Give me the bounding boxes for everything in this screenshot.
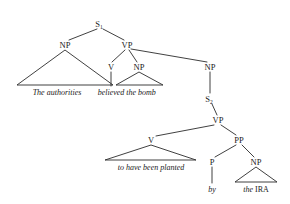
branch-s1-to-np-subject: [69, 29, 97, 40]
terminal-object-phrase: the bomb: [126, 88, 156, 97]
branch-vp-main-to-v: [112, 50, 125, 62]
terminal-agent-phrase: theIRA: [243, 185, 269, 194]
node-s1: S1: [95, 19, 103, 30]
node-np-subject: NP: [60, 40, 71, 50]
np-subject-triangle: [17, 50, 113, 85]
node-pp: PP: [234, 135, 244, 145]
node-s2: S2: [205, 94, 213, 105]
branch-s1-to-vp-main: [103, 29, 124, 40]
terminal-agent-noun: IRA: [255, 185, 269, 194]
terminal-embedded-verb-phrase: to have been planted: [118, 163, 185, 172]
terminal-preposition: by: [208, 185, 216, 194]
branch-vp-embedded-to-pp: [221, 125, 236, 135]
node-v-embedded: V: [148, 135, 155, 145]
np-object-triangle: [116, 72, 163, 85]
branch-pp-to-np-agent: [242, 145, 254, 157]
tree-canvas: S1 NP VP V NP NP S2 VP V PP P NP The aut…: [0, 0, 290, 204]
syntax-tree-diagram: S1 NP VP V NP NP S2 VP V PP P NP The aut…: [0, 0, 290, 204]
branch-vp-main-to-np-clause: [131, 49, 207, 62]
terminal-main-verb: believed: [98, 88, 126, 97]
terminal-agent-determiner: the: [243, 185, 253, 194]
branch-pp-to-p: [215, 145, 236, 157]
node-np-object: NP: [134, 62, 145, 72]
node-vp-main: VP: [122, 40, 133, 50]
node-v-main: V: [108, 62, 115, 72]
terminal-subject-phrase: The authorities: [33, 88, 82, 97]
node-np-clause: NP: [205, 62, 216, 72]
branch-vp-main-to-np-object: [129, 50, 137, 62]
np-agent-triangle: [235, 167, 277, 182]
v-embedded-triangle: [105, 145, 196, 160]
branch-s2-to-vp-embedded: [212, 104, 217, 115]
node-vp-embedded: VP: [213, 115, 224, 125]
node-np-agent: NP: [251, 157, 262, 167]
node-p: P: [210, 157, 215, 167]
node-label-group: S1 NP VP V NP NP S2 VP V PP P NP: [60, 19, 262, 167]
branch-vp-embedded-to-v: [156, 125, 214, 136]
